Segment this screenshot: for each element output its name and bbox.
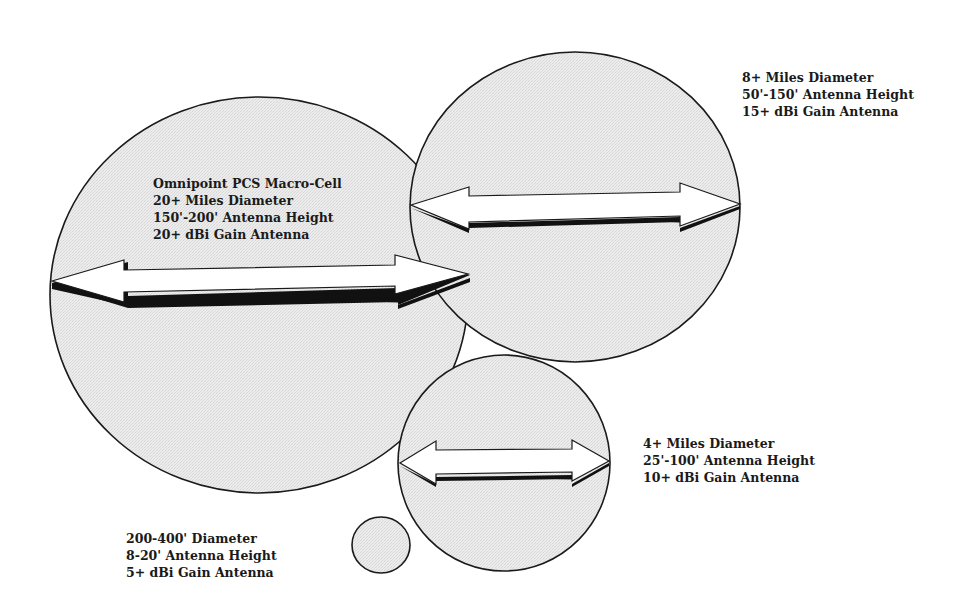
macro-cell-antenna-height: 150'-200' Antenna Height [153,209,342,226]
macro-cell-title: Omnipoint PCS Macro-Cell [153,175,342,192]
8-mile-cell-label: 8+ Miles Diameter 50'-150' Antenna Heigh… [742,69,914,120]
4-mile-cell-antenna-gain: 10+ dBi Gain Antenna [643,469,815,486]
8-mile-cell-antenna-height: 50'-150' Antenna Height [742,86,914,103]
macro-cell-diameter: 20+ Miles Diameter [153,192,342,209]
macro-cell-antenna-gain: 20+ dBi Gain Antenna [153,226,342,243]
micro-cell-diameter: 200-400' Diameter [126,530,277,547]
8-mile-cell-antenna-gain: 15+ dBi Gain Antenna [742,103,914,120]
micro-cell [352,517,410,573]
micro-cell-label: 200-400' Diameter 8-20' Antenna Height 5… [126,530,277,581]
8-mile-cell-diameter: 8+ Miles Diameter [742,69,914,86]
micro-cell-circle [352,517,410,573]
4-mile-cell-diameter: 4+ Miles Diameter [643,435,815,452]
4-mile-cell-antenna-height: 25'-100' Antenna Height [643,452,815,469]
4-mile-cell-label: 4+ Miles Diameter 25'-100' Antenna Heigh… [643,435,815,486]
micro-cell-antenna-height: 8-20' Antenna Height [126,547,277,564]
micro-cell-antenna-gain: 5+ dBi Gain Antenna [126,564,277,581]
macro-cell-label: Omnipoint PCS Macro-Cell 20+ Miles Diame… [153,175,342,243]
